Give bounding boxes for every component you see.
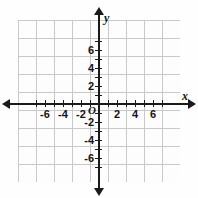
origin-label: O xyxy=(88,105,96,116)
y-axis-tick xyxy=(95,113,102,114)
x-axis-tick xyxy=(135,100,136,107)
y-axis-tick xyxy=(95,95,102,96)
y-axis-tick xyxy=(95,149,102,150)
x-axis-tick xyxy=(36,100,37,107)
x-axis-left-arrowhead xyxy=(2,99,10,109)
y-axis-tick xyxy=(95,41,102,42)
y-axis-tick xyxy=(95,59,102,60)
y-axis-tick-label: 2 xyxy=(76,81,94,92)
y-axis-letter: y xyxy=(104,12,109,24)
x-axis-letter: x xyxy=(182,90,188,102)
y-axis-down-arrowhead xyxy=(94,188,104,196)
y-axis-tick xyxy=(95,77,102,78)
x-axis-tick-label: -4 xyxy=(58,109,68,120)
y-axis-tick xyxy=(95,158,102,159)
y-axis-tick xyxy=(95,131,102,132)
x-axis-tick xyxy=(45,100,46,107)
y-axis-up-arrowhead xyxy=(94,7,104,15)
x-axis-tick xyxy=(126,100,127,107)
x-axis-tick xyxy=(153,100,154,107)
x-axis-tick xyxy=(144,100,145,107)
x-axis-tick xyxy=(108,100,109,107)
x-axis-tick xyxy=(117,100,118,107)
x-axis-tick-label: 6 xyxy=(150,109,156,120)
y-axis-tick xyxy=(95,140,102,141)
x-axis-tick-label: 2 xyxy=(114,109,120,120)
y-axis-tick xyxy=(95,122,102,123)
y-axis-tick-label: 4 xyxy=(76,63,94,74)
y-axis-tick-label: -6 xyxy=(76,153,94,164)
y-axis-tick-label: -2 xyxy=(76,117,94,128)
y-axis-tick xyxy=(95,68,102,69)
x-axis-tick xyxy=(162,100,163,107)
x-axis-tick xyxy=(54,100,55,107)
x-axis-tick-label: -6 xyxy=(40,109,50,120)
x-axis-tick-label: 4 xyxy=(132,109,138,120)
x-axis-tick xyxy=(72,100,73,107)
y-axis-tick-label: 6 xyxy=(76,45,94,56)
x-axis-tick xyxy=(81,100,82,107)
y-axis-tick xyxy=(95,167,102,168)
y-axis-tick xyxy=(95,86,102,87)
coordinate-plane-figure: -6-4-2246 642-2-4-6 O x y xyxy=(0,0,198,198)
x-axis-right-arrowhead xyxy=(188,99,196,109)
y-axis-tick-label: -4 xyxy=(76,135,94,146)
x-axis-tick xyxy=(63,100,64,107)
y-axis-tick xyxy=(95,50,102,51)
